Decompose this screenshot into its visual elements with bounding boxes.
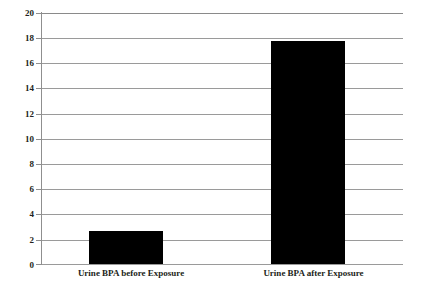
gridline-4 xyxy=(42,214,403,215)
gridline-12 xyxy=(42,114,403,115)
y-tick-label: 12 xyxy=(4,110,34,119)
y-tick-label: 0 xyxy=(4,261,34,270)
y-tick-label: 10 xyxy=(4,135,34,144)
gridline-18 xyxy=(42,38,403,39)
gridline-0-baseline xyxy=(42,264,403,265)
y-tick-label: 8 xyxy=(4,160,34,169)
bar-urine-bpa-before xyxy=(89,231,163,264)
bar-urine-bpa-after xyxy=(271,41,345,264)
gridline-14 xyxy=(42,88,403,89)
y-tick-label: 14 xyxy=(4,84,34,93)
y-tick-label: 20 xyxy=(4,9,34,18)
x-axis-label-category-0: Urine BPA before Exposure xyxy=(46,268,216,279)
gridline-20 xyxy=(42,13,403,14)
gridline-16 xyxy=(42,63,403,64)
gridline-6 xyxy=(42,189,403,190)
plot-area xyxy=(42,13,403,264)
y-axis-labels: 20 18 16 14 12 10 8 6 4 2 0 xyxy=(0,0,34,293)
bar-chart: 20 18 16 14 12 10 8 6 4 2 0 Uri xyxy=(0,0,426,293)
y-tick-label: 16 xyxy=(4,59,34,68)
y-tick-label: 6 xyxy=(4,185,34,194)
gridline-8 xyxy=(42,164,403,165)
y-tick-label: 18 xyxy=(4,34,34,43)
gridline-10 xyxy=(42,139,403,140)
x-axis-label-category-1: Urine BPA after Exposure xyxy=(226,268,401,279)
y-tick-label: 4 xyxy=(4,210,34,219)
y-tick-label: 2 xyxy=(4,236,34,245)
